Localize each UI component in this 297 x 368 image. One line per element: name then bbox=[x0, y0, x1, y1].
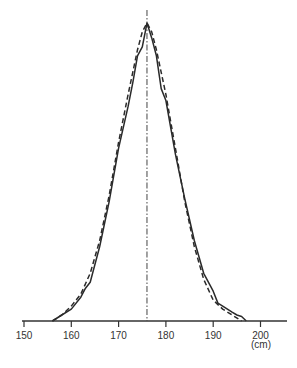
height-distribution-chart: 150160170180190200 (cm) bbox=[0, 0, 297, 368]
plot-area bbox=[52, 10, 246, 321]
x-tick-label: 160 bbox=[63, 330, 80, 341]
x-axis-unit-label: (cm) bbox=[251, 339, 271, 350]
x-tick-label: 170 bbox=[110, 330, 127, 341]
x-tick-label: 150 bbox=[16, 330, 33, 341]
series-observed bbox=[52, 23, 246, 321]
x-axis: 150160170180190200 bbox=[16, 321, 287, 341]
x-tick-label: 190 bbox=[205, 330, 222, 341]
x-tick-label: 180 bbox=[158, 330, 175, 341]
